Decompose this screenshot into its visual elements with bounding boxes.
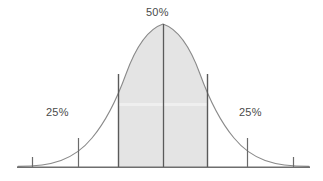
right-tail-percentage-label: 25% (239, 107, 262, 118)
center-percentage-label: 50% (146, 7, 169, 18)
left-tail-percentage-label: 25% (46, 107, 69, 118)
bell-curve-graphic (0, 0, 323, 181)
bell-curve-chart: 50% 25% 25% (0, 0, 323, 181)
